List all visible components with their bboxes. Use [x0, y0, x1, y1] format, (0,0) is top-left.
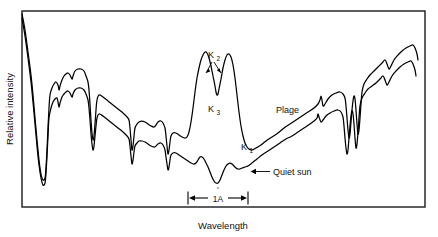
k2-label: K	[208, 50, 214, 60]
spectrum-plot: Relative intensity Wavelength K 2 K 3 K …	[0, 0, 438, 237]
k3-subscript: 3	[217, 109, 221, 116]
k1-subscript: 1	[250, 147, 254, 154]
plage-label: Plage	[276, 105, 299, 115]
k2-subscript: 2	[217, 55, 221, 62]
angstrom-ring-icon: ˚	[217, 187, 219, 194]
y-axis-label: Relative intensity	[4, 73, 15, 145]
x-axis-label: Wavelength	[198, 220, 248, 231]
spectrum-figure: Relative intensity Wavelength K 2 K 3 K …	[0, 0, 438, 237]
scale-bar-label: 1A	[213, 194, 224, 204]
k3-label: K	[208, 104, 214, 114]
k1-label: K	[241, 142, 247, 152]
quiet-sun-label: Quiet sun	[273, 167, 312, 177]
